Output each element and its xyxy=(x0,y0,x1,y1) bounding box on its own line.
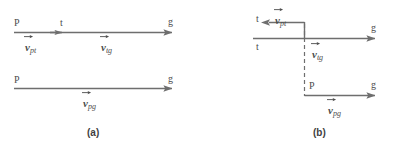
vector-symbol-v: v xyxy=(312,49,317,60)
v-pt-arrowhead-b xyxy=(261,19,270,25)
point-label-b-top-g: g xyxy=(371,23,376,33)
point-label-b-lower-t: t xyxy=(256,42,259,52)
vector-subscript-pt: pt xyxy=(30,47,36,55)
vector-symbol-v: v xyxy=(25,42,30,53)
point-label-a-bottom-g: g xyxy=(168,74,173,84)
vector-symbol-v: v xyxy=(275,15,280,26)
vector-label-a-v-tg: vtg xyxy=(101,38,112,55)
vector-label-a-v-pg: vpg xyxy=(83,94,96,111)
vector-label-b-v-pt: vpt xyxy=(275,11,286,28)
vector-label-b-v-pg: vpg xyxy=(328,101,341,118)
vector-symbol-v: v xyxy=(83,98,88,109)
point-label-a-bottom-P: P xyxy=(14,75,20,85)
vector-symbol-v: v xyxy=(328,105,333,116)
point-label-b-bottom-P: P xyxy=(309,81,315,91)
vector-subscript-tg: tg xyxy=(106,47,112,55)
point-label-a-top-g: g xyxy=(168,17,173,27)
point-label-b-bottom-g: g xyxy=(371,80,376,90)
vector-subscript-pg: pg xyxy=(88,103,96,111)
vector-subscript-pg: pg xyxy=(333,110,341,118)
panel-a-caption: (a) xyxy=(87,128,99,138)
vector-subscript-tg: tg xyxy=(317,54,323,62)
vector-symbol-v: v xyxy=(101,42,106,53)
point-label-a-top-P: P xyxy=(14,18,20,28)
vector-label-a-v-pt: vpt xyxy=(25,38,36,55)
figure-canvas: P t g vpt vtg P g vpg (a) t vpt t g vtg … xyxy=(0,0,399,148)
point-label-b-upper-t: t xyxy=(256,14,259,24)
vector-subscript-pt: pt xyxy=(280,20,286,28)
point-label-a-top-t: t xyxy=(60,18,63,28)
panel-b-caption: (b) xyxy=(313,128,326,138)
vector-label-b-v-tg: vtg xyxy=(312,45,323,62)
